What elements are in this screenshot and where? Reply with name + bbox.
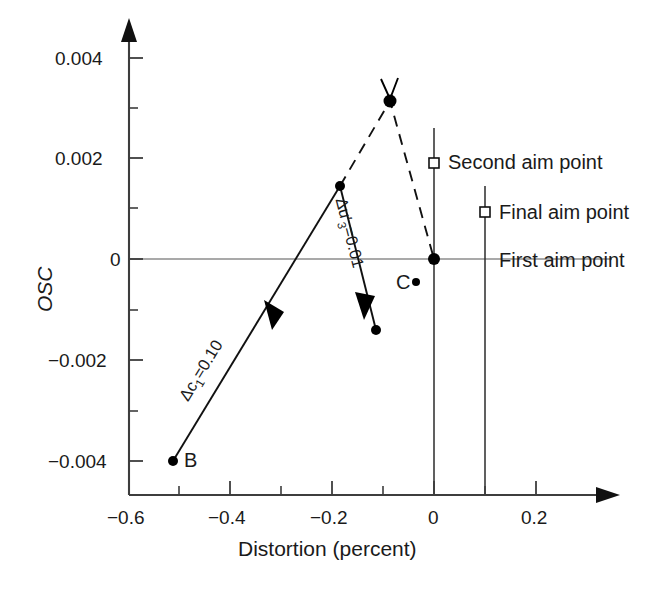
marker-point-b [168,456,178,466]
x-tick-label-4: 0.2 [521,508,547,527]
x-tick-label-1: −0.4 [208,508,246,527]
marker-lower-point [371,325,381,335]
y-axis-title: OSC [34,266,55,312]
point-b-label: B [184,450,197,470]
marker-first-aim-point [428,253,440,265]
y-tick-label-4: −0.004 [48,452,107,471]
y-tick-label-2: 0 [110,250,121,269]
x-tick-label-3: 0 [428,508,439,527]
marker-vertex-point [335,181,345,191]
marker-point-c [412,278,420,286]
x-tick-label-0: −0.6 [107,508,145,527]
chart-figure: 0.004 0.002 0 −0.002 −0.004 −0.6 −0.4 −0… [0,0,659,591]
x-axis-title: Distortion (percent) [238,538,417,559]
point-c-label: C [396,272,410,292]
plot-canvas [0,0,659,591]
final-aim-point-label: Final aim point [499,202,629,222]
second-aim-point-label: Second aim point [448,152,603,172]
x-axis-arrowhead [596,487,620,503]
x-tick-label-2: −0.2 [310,508,348,527]
marker-peak-point [384,95,397,108]
x-axis-major-ticks [129,481,536,495]
marker-final-aim-point [480,207,490,217]
delta-c1-arrowhead [264,300,284,330]
marker-second-aim-point [429,158,439,168]
y-tick-label-1: 0.002 [55,149,103,168]
y-axis-major-ticks [129,58,143,461]
y-tick-label-0: 0.004 [55,49,103,68]
solid-path-b-to-vertex [173,186,340,461]
y-tick-label-3: −0.002 [48,351,107,370]
first-aim-point-label: First aim point [499,250,625,270]
y-axis-arrowhead [121,18,137,42]
